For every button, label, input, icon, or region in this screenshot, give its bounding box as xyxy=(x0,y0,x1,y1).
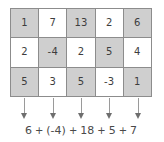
arrow-shaft xyxy=(81,98,82,114)
grid-cell-r3-c5: 1 xyxy=(124,68,151,96)
grid-cell-r2-c5: 4 xyxy=(124,38,151,66)
equation-operator-4: + xyxy=(119,125,127,136)
arrow-head xyxy=(78,113,84,119)
column-sum-figure: 1713262-4254535-31 6+(-4)+18+5+7 xyxy=(0,0,164,142)
arrow-column-4-icon xyxy=(105,98,114,120)
equation-term-5: 7 xyxy=(130,124,137,137)
grid-cell-r3-c2: 3 xyxy=(39,68,66,96)
grid-cell-r3-c1: 5 xyxy=(11,68,38,96)
grid-cell-r2-c1: 2 xyxy=(11,38,38,66)
equation-term-3: 18 xyxy=(80,124,94,137)
arrow-shaft xyxy=(109,98,110,114)
equation-term-2: (-4) xyxy=(46,124,66,137)
equation-term-4: 5 xyxy=(109,124,116,137)
equation-operator-1: + xyxy=(35,125,43,136)
grid-cell-r2-c4: 5 xyxy=(96,38,123,66)
grid-cell-r2-c2: -4 xyxy=(39,38,66,66)
equation-term-1: 6 xyxy=(25,124,32,137)
arrow-column-1-icon xyxy=(20,98,29,120)
grid-cell-r3-c4: -3 xyxy=(96,68,123,96)
arrow-column-3-icon xyxy=(77,98,86,120)
number-grid: 1713262-4254535-31 xyxy=(10,8,152,97)
arrow-shaft xyxy=(138,98,139,114)
grid-cell-r2-c3: 2 xyxy=(67,38,94,66)
arrow-column-2-icon xyxy=(49,98,58,120)
sum-equation: 6+(-4)+18+5+7 xyxy=(10,121,152,139)
grid-cell-r1-c4: 2 xyxy=(96,9,123,37)
arrow-row xyxy=(10,98,152,120)
arrow-column-5-icon xyxy=(134,98,143,120)
grid-cell-r1-c2: 7 xyxy=(39,9,66,37)
grid-cell-r1-c3: 13 xyxy=(67,9,94,37)
arrow-shaft xyxy=(24,98,25,114)
equation-operator-3: + xyxy=(97,125,105,136)
arrow-head xyxy=(135,113,141,119)
arrow-head xyxy=(50,113,56,119)
grid-cell-r1-c5: 6 xyxy=(124,9,151,37)
equation-operator-2: + xyxy=(69,125,77,136)
arrow-head xyxy=(21,113,27,119)
arrow-head xyxy=(106,113,112,119)
grid-cell-r1-c1: 1 xyxy=(11,9,38,37)
arrow-shaft xyxy=(53,98,54,114)
grid-cell-r3-c3: 5 xyxy=(67,68,94,96)
